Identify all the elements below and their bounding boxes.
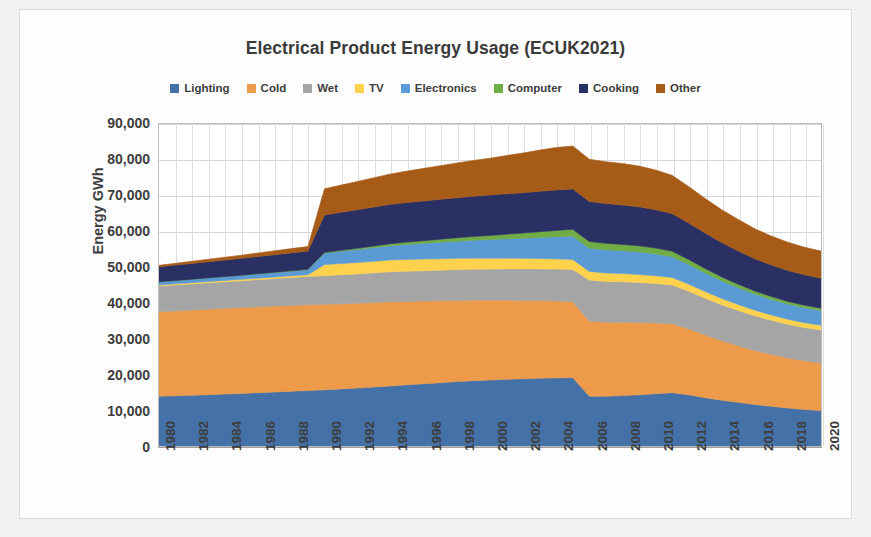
- legend-item-wet[interactable]: Wet: [303, 82, 338, 94]
- y-tick-label: 80,000: [107, 151, 150, 167]
- x-axis-ticks: 1980198219841986198819901992199419961998…: [158, 451, 822, 511]
- y-tick-label: 60,000: [107, 223, 150, 239]
- x-tick-label: 1980: [163, 421, 178, 451]
- legend-swatch-icon: [303, 84, 312, 93]
- chart-page: Electrical Product Energy Usage (ECUK202…: [0, 0, 871, 537]
- x-tick-label: 2018: [794, 421, 809, 451]
- y-tick-label: 10,000: [107, 403, 150, 419]
- x-tick-label: 2012: [694, 421, 709, 451]
- legend-label: Cold: [261, 82, 287, 94]
- legend-label: TV: [369, 82, 384, 94]
- y-axis-ticks: 90,00080,00070,00060,00050,00040,00030,0…: [64, 123, 154, 447]
- legend-swatch-icon: [170, 84, 179, 93]
- y-tick-label: 70,000: [107, 187, 150, 203]
- legend-item-lighting[interactable]: Lighting: [170, 82, 229, 94]
- chart-title: Electrical Product Energy Usage (ECUK202…: [20, 38, 851, 59]
- x-tick-label: 2004: [561, 421, 576, 451]
- plot-area: [158, 123, 822, 447]
- legend-swatch-icon: [656, 84, 665, 93]
- legend-label: Cooking: [593, 82, 639, 94]
- legend-label: Computer: [508, 82, 562, 94]
- x-tick-label: 1990: [329, 421, 344, 451]
- x-tick-label: 1994: [395, 421, 410, 451]
- legend-label: Wet: [317, 82, 338, 94]
- legend-item-tv[interactable]: TV: [355, 82, 384, 94]
- stacked-area-series: [159, 124, 821, 446]
- legend-item-other[interactable]: Other: [656, 82, 701, 94]
- x-tick-label: 2000: [495, 421, 510, 451]
- legend-label: Lighting: [184, 82, 229, 94]
- y-tick-label: 90,000: [107, 115, 150, 131]
- x-tick-label: 1992: [362, 421, 377, 451]
- chart-card: Electrical Product Energy Usage (ECUK202…: [20, 10, 851, 518]
- vertical-gridline: [823, 124, 824, 446]
- legend-item-cold[interactable]: Cold: [247, 82, 287, 94]
- legend-swatch-icon: [401, 84, 410, 93]
- legend-swatch-icon: [355, 84, 364, 93]
- y-tick-label: 40,000: [107, 295, 150, 311]
- y-tick-label: 20,000: [107, 367, 150, 383]
- x-tick-label: 1982: [196, 421, 211, 451]
- y-tick-label: 50,000: [107, 259, 150, 275]
- legend-item-electronics[interactable]: Electronics: [401, 82, 477, 94]
- x-tick-label: 2014: [727, 421, 742, 451]
- x-tick-label: 1996: [429, 421, 444, 451]
- x-tick-label: 2016: [761, 421, 776, 451]
- x-tick-label: 2006: [595, 421, 610, 451]
- legend-label: Electronics: [415, 82, 477, 94]
- x-axis-line: [158, 447, 822, 448]
- y-tick-label: 30,000: [107, 331, 150, 347]
- y-tick-label: 0: [142, 439, 150, 455]
- x-tick-label: 2010: [661, 421, 676, 451]
- legend-item-computer[interactable]: Computer: [494, 82, 562, 94]
- x-tick-label: 2002: [528, 421, 543, 451]
- legend-item-cooking[interactable]: Cooking: [579, 82, 639, 94]
- x-tick-label: 1988: [296, 421, 311, 451]
- x-tick-label: 1984: [229, 421, 244, 451]
- legend-swatch-icon: [494, 84, 503, 93]
- x-tick-label: 1998: [462, 421, 477, 451]
- chart-legend: LightingColdWetTVElectronicsComputerCook…: [20, 82, 851, 94]
- x-tick-label: 2020: [827, 421, 842, 451]
- x-tick-label: 1986: [263, 421, 278, 451]
- x-tick-label: 2008: [628, 421, 643, 451]
- legend-swatch-icon: [579, 84, 588, 93]
- legend-label: Other: [670, 82, 701, 94]
- legend-swatch-icon: [247, 84, 256, 93]
